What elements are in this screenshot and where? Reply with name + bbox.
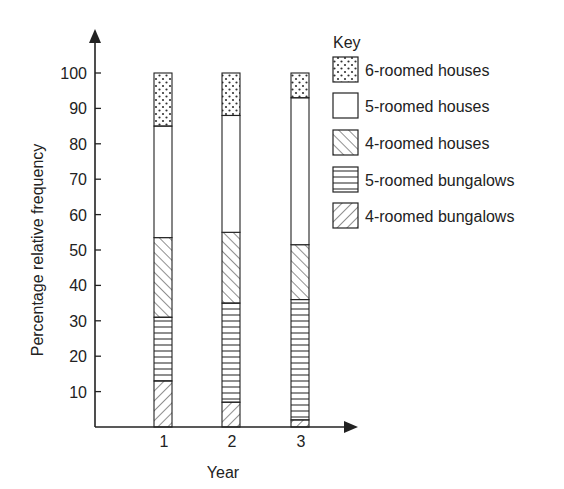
legend-label: 4-roomed bungalows [365, 208, 514, 225]
legend-item: 5-roomed houses [333, 93, 490, 118]
x-axis-arrow-icon [344, 421, 358, 433]
bar-segment [291, 420, 309, 427]
y-tick-label: 80 [69, 136, 87, 153]
legend-item: 4-roomed houses [333, 130, 490, 155]
x-tick-label: 1 [160, 433, 169, 450]
legend-swatch-diagonal-forward-icon [333, 203, 358, 228]
legend-label: 5-roomed houses [365, 98, 490, 115]
bar-segment [154, 317, 172, 381]
x-ticks: 123 [160, 433, 306, 450]
legend-label: 4-roomed houses [365, 135, 490, 152]
legend-swatch-dotted-icon [333, 57, 358, 82]
legend-item: 6-roomed houses [333, 57, 490, 82]
legend-item: 4-roomed bungalows [333, 203, 514, 228]
legend-label: 6-roomed houses [365, 62, 490, 79]
y-tick-label: 20 [69, 348, 87, 365]
bar-year-3 [291, 73, 309, 427]
y-tick-label: 90 [69, 100, 87, 117]
bar-segment [222, 402, 240, 427]
bar-segment [291, 300, 309, 420]
bars-group [154, 73, 309, 427]
legend-swatch-diagonal-backward-icon [333, 130, 358, 155]
legend-swatch-blank-icon [333, 93, 358, 118]
legend-title: Key [333, 34, 361, 51]
y-tick-label: 30 [69, 313, 87, 330]
bar-segment [222, 232, 240, 303]
bar-segment [291, 73, 309, 98]
legend-item: 5-roomed bungalows [333, 167, 514, 192]
x-axis-label: Year [207, 464, 240, 481]
y-axis-label: Percentage relative frequency [29, 144, 46, 357]
bar-segment [222, 303, 240, 402]
bar-segment [154, 238, 172, 318]
y-tick-label: 100 [60, 65, 87, 82]
legend-swatch-horizontal-icon [333, 167, 358, 192]
y-tick-label: 50 [69, 242, 87, 259]
y-tick-label: 60 [69, 207, 87, 224]
bar-segment [154, 126, 172, 238]
y-tick-label: 10 [69, 384, 87, 401]
y-tick-label: 70 [69, 171, 87, 188]
stacked-bar-chart: 102030405060708090100 123 Year Percentag… [0, 0, 564, 489]
y-axis-arrow-icon [89, 29, 101, 43]
bar-segment [154, 381, 172, 427]
bar-segment [291, 98, 309, 245]
bar-year-1 [154, 73, 172, 427]
y-tick-label: 40 [69, 277, 87, 294]
bar-year-2 [222, 73, 240, 427]
bar-segment [291, 245, 309, 300]
x-tick-label: 2 [228, 433, 237, 450]
bar-segment [222, 73, 240, 115]
legend: Key 6-roomed houses5-roomed houses4-room… [333, 34, 514, 228]
x-tick-label: 3 [297, 433, 306, 450]
legend-label: 5-roomed bungalows [365, 172, 514, 189]
bar-segment [154, 73, 172, 126]
bar-segment [222, 115, 240, 232]
